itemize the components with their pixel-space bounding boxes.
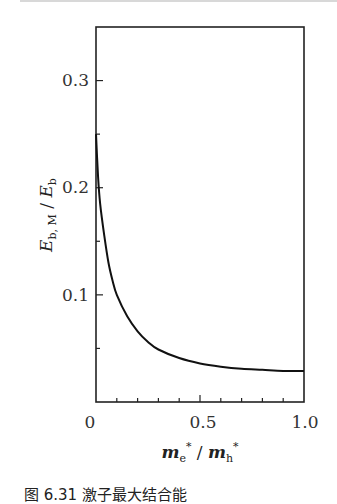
- x-axis-label: me* / mh*: [161, 440, 239, 465]
- x-tick-label-0.5: 0.5: [189, 412, 216, 432]
- y-axis-label: Eb, M / Eb: [36, 178, 59, 253]
- x-tick-label-1.0: 1.0: [291, 412, 318, 432]
- x-tick-label-0: 0: [85, 412, 96, 432]
- plot-frame: [96, 27, 304, 402]
- x-axis-ticks: [117, 395, 283, 402]
- y-tick-label-0.2: 0.2: [62, 177, 89, 197]
- y-tick-label-0.1: 0.1: [62, 285, 89, 305]
- data-curve: [96, 134, 304, 371]
- figure-caption: 图 6.31 激子最大结合能: [24, 483, 187, 504]
- y-tick-label-0.3: 0.3: [62, 70, 89, 90]
